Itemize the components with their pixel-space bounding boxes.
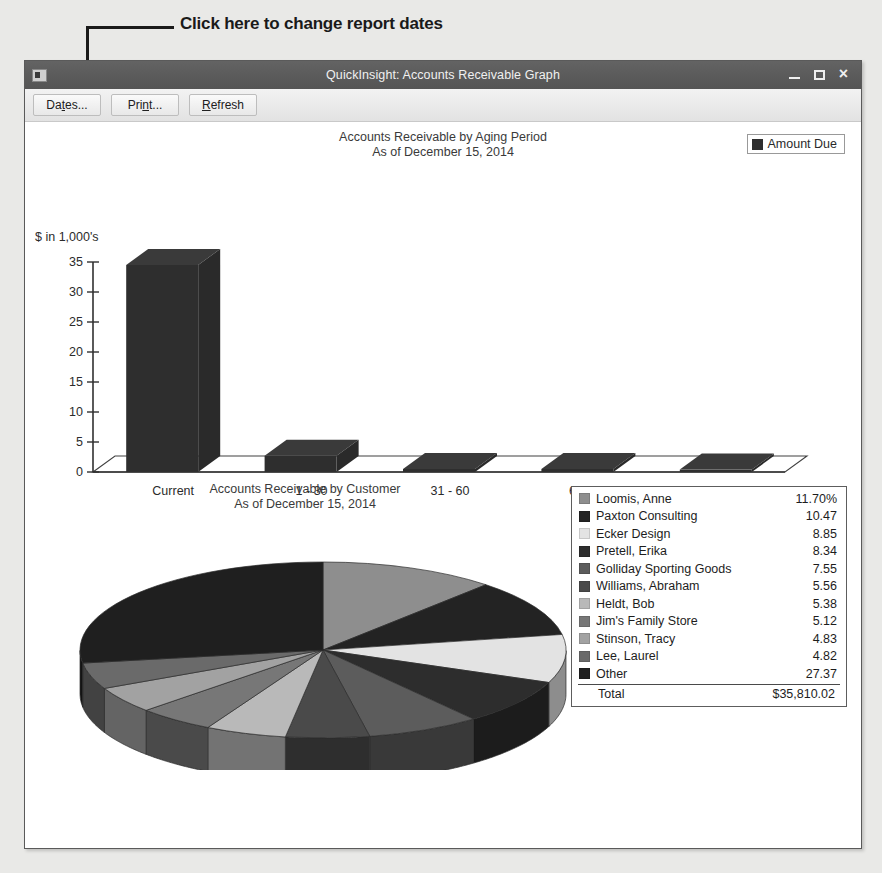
legend-item-label: Heldt, Bob (596, 597, 813, 611)
callout-leader-line-horizontal (88, 26, 174, 29)
pie-chart-svg (73, 530, 573, 770)
legend-row: Williams, Abraham5.56 (576, 578, 842, 596)
pie-slice (80, 562, 323, 663)
bar-chart-legend: Amount Due (747, 134, 845, 154)
dates-button-post: es... (65, 98, 88, 112)
legend-swatch-amount-due (752, 139, 763, 150)
refresh-button-post: efresh (211, 98, 244, 112)
y-axis-tick-label: 20 (57, 345, 83, 359)
legend-item-label: Other (596, 667, 806, 681)
legend-item-label: Williams, Abraham (596, 579, 813, 593)
y-axis-tick-label: 30 (57, 285, 83, 299)
y-axis-tick-label: 35 (57, 255, 83, 269)
legend-swatch-icon (579, 668, 590, 679)
legend-item-label: Jim's Family Store (596, 614, 813, 628)
print-button-post: t... (149, 98, 162, 112)
legend-swatch-icon (579, 546, 590, 557)
print-button-mnemonic: n (142, 98, 149, 112)
legend-item-value: 4.82 (813, 649, 839, 663)
legend-item-label: Stinson, Tracy (596, 632, 813, 646)
legend-total-value: $35,810.02 (772, 687, 837, 701)
legend-row: Other27.37 (576, 665, 842, 683)
pie-chart-title-line2: As of December 15, 2014 (65, 497, 545, 512)
legend-item-label: Golliday Sporting Goods (596, 562, 813, 576)
legend-row: Lee, Laurel4.82 (576, 648, 842, 666)
legend-item-label: Loomis, Anne (596, 492, 796, 506)
print-button-pre: Pri (128, 98, 143, 112)
dates-button-pre: Da (46, 98, 61, 112)
legend-item-label: Ecker Design (596, 527, 813, 541)
legend-item-label: Lee, Laurel (596, 649, 813, 663)
bar-column (126, 249, 220, 472)
legend-item-value: 7.55 (813, 562, 839, 576)
y-axis-tick-label: 25 (57, 315, 83, 329)
dates-button[interactable]: Dates... (33, 94, 101, 116)
application-window: QuickInsight: Accounts Receivable Graph … (24, 60, 862, 849)
legend-row: Golliday Sporting Goods7.55 (576, 560, 842, 578)
bar-side-face (198, 249, 220, 472)
maximize-icon[interactable] (814, 70, 825, 80)
legend-label-amount-due: Amount Due (768, 137, 837, 151)
chart-canvas: Accounts Receivable by Aging Period As o… (25, 122, 861, 848)
legend-row: Stinson, Tracy4.83 (576, 630, 842, 648)
print-button[interactable]: Print... (111, 94, 179, 116)
legend-total-row: Total$35,810.02 (578, 684, 840, 703)
bar-chart-title-line1: Accounts Receivable by Aging Period (25, 130, 861, 145)
legend-row: Heldt, Bob5.38 (576, 595, 842, 613)
y-axis-tick-label: 5 (57, 435, 83, 449)
refresh-button-mnemonic: R (202, 98, 211, 112)
legend-item-value: 5.12 (813, 614, 839, 628)
y-axis-tick-label: 10 (57, 405, 83, 419)
y-axis-tick-label: 0 (57, 465, 83, 479)
minimize-icon[interactable] (789, 77, 800, 79)
pie-chart-title-line1: Accounts Receivable by Customer (65, 482, 545, 497)
legend-row: Jim's Family Store5.12 (576, 613, 842, 631)
bar-chart-svg (25, 240, 861, 510)
window-controls: × (789, 68, 861, 82)
legend-item-value: 11.70% (796, 492, 839, 506)
title-bar[interactable]: QuickInsight: Accounts Receivable Graph … (25, 61, 861, 89)
refresh-button[interactable]: Refresh (189, 94, 257, 116)
pie-chart-title: Accounts Receivable by Customer As of De… (65, 482, 545, 512)
legend-item-value: 4.83 (813, 632, 839, 646)
legend-item-label: Paxton Consulting (596, 509, 806, 523)
legend-swatch-icon (579, 563, 590, 574)
legend-item-label: Pretell, Erika (596, 544, 813, 558)
legend-total-label: Total (598, 687, 772, 701)
legend-swatch-icon (579, 511, 590, 522)
legend-item-value: 27.37 (806, 667, 839, 681)
legend-swatch-icon (579, 581, 590, 592)
legend-swatch-icon (579, 598, 590, 609)
pie-chart-plot (73, 530, 573, 770)
legend-row: Ecker Design8.85 (576, 525, 842, 543)
bar-chart-title: Accounts Receivable by Aging Period As o… (25, 130, 861, 160)
close-icon[interactable]: × (839, 66, 848, 82)
pie-slice-side (285, 736, 369, 770)
callout-label: Click here to change report dates (180, 14, 443, 34)
legend-item-value: 5.56 (813, 579, 839, 593)
legend-row: Paxton Consulting10.47 (576, 508, 842, 526)
bar-chart-plot: 05101520253035Current1 - 3031 - 6061 - 9… (25, 240, 861, 510)
toolbar: Dates... Print... Refresh (25, 89, 861, 122)
window-title: QuickInsight: Accounts Receivable Graph (25, 68, 861, 82)
bar-front-face (265, 456, 337, 472)
legend-item-value: 5.38 (813, 597, 839, 611)
legend-row: Loomis, Anne11.70% (576, 490, 842, 508)
pie-chart-legend: Loomis, Anne11.70%Paxton Consulting10.47… (571, 486, 847, 707)
y-axis-tick-label: 15 (57, 375, 83, 389)
legend-swatch-icon (579, 651, 590, 662)
legend-item-value: 8.34 (813, 544, 839, 558)
legend-swatch-icon (579, 633, 590, 644)
legend-swatch-icon (579, 616, 590, 627)
legend-item-value: 8.85 (813, 527, 839, 541)
legend-swatch-icon (579, 493, 590, 504)
bar-chart-title-line2: As of December 15, 2014 (25, 145, 861, 160)
legend-item-value: 10.47 (806, 509, 839, 523)
bar-front-face (126, 265, 198, 472)
legend-row: Pretell, Erika8.34 (576, 543, 842, 561)
legend-swatch-icon (579, 528, 590, 539)
